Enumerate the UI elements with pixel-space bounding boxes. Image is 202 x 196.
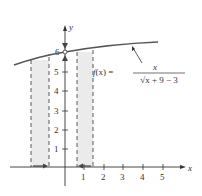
y-tick-label: 4	[54, 86, 59, 96]
up-arrow-icon	[62, 55, 68, 61]
y-tick-label: 2	[54, 125, 59, 135]
y-tick-label: 5	[54, 67, 59, 77]
down-arrow-icon	[62, 43, 68, 49]
x-tick-label: 2	[101, 172, 106, 182]
x-axis-label: x	[187, 163, 192, 173]
y-tick-label: 3	[54, 106, 59, 116]
y-tick-label: 6	[55, 47, 60, 57]
x-tick-label: 4	[140, 172, 145, 182]
y-tick-label: 1	[54, 144, 59, 154]
function-graph: 1 2 3 4 5 1 2 3 4 5 6 x y f(x) = x √x + …	[0, 0, 202, 196]
left-shaded-band	[31, 60, 49, 167]
x-tick-label: 1	[81, 172, 86, 182]
function-label: f(x) =	[93, 67, 113, 77]
x-tick-label: 5	[160, 172, 165, 182]
formula-denominator: √x + 9 − 3	[140, 75, 178, 85]
formula-numerator: x	[152, 62, 157, 72]
x-axis-arrow-icon	[180, 165, 186, 169]
y-axis-arrow-icon	[63, 25, 67, 31]
right-shaded-band	[77, 52, 93, 167]
pointer-line	[133, 48, 142, 63]
y-axis-label: y	[68, 22, 73, 32]
hole-point	[63, 50, 67, 54]
x-tick-label: 3	[120, 172, 125, 182]
